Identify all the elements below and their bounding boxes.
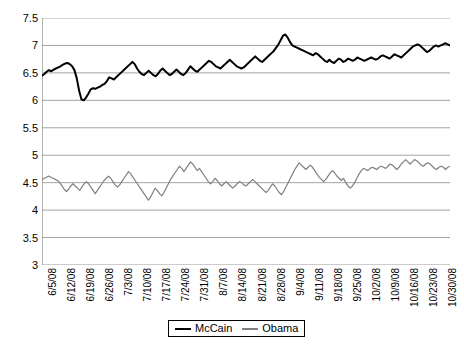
- x-axis-tick-label: 9/4/08: [296, 268, 306, 296]
- y-axis-tick-label: 6: [32, 95, 38, 106]
- y-axis-tick-label: 4: [32, 205, 38, 216]
- x-axis-tick-label: 10/30/08: [448, 268, 458, 307]
- x-axis-tick-label: 9/25/08: [353, 268, 363, 301]
- x-axis-tick-label: 6/12/08: [67, 268, 77, 301]
- x-axis-tick-label: 10/2/08: [372, 268, 382, 301]
- y-axis-tick-label: 3.5: [23, 232, 38, 243]
- x-axis-tick-label: 7/24/08: [181, 268, 191, 301]
- y-axis-tick-label: 6.5: [23, 67, 38, 78]
- y-axis: 33.544.555.566.577.5: [0, 0, 38, 345]
- y-axis-tick-label: 4.5: [23, 177, 38, 188]
- x-axis-tick-label: 9/18/08: [334, 268, 344, 301]
- legend-item-mccain: McCain: [175, 323, 232, 334]
- x-axis-tick-label: 10/9/08: [391, 268, 401, 301]
- chart-legend: McCain Obama: [168, 320, 305, 337]
- legend-label-mccain: McCain: [195, 323, 232, 334]
- x-axis-tick-label: 7/10/08: [143, 268, 153, 301]
- x-axis-tick-label: 10/23/08: [429, 268, 439, 307]
- y-axis-tick-label: 7.5: [23, 13, 38, 24]
- x-axis-tick-label: 7/17/08: [162, 268, 172, 301]
- legend-label-obama: Obama: [262, 323, 298, 334]
- plot-svg: [42, 18, 450, 265]
- x-axis-tick-label: 8/28/08: [277, 268, 287, 301]
- y-axis-tick-label: 5.5: [23, 122, 38, 133]
- y-axis-tick-label: 7: [32, 40, 38, 51]
- x-axis-tick-label: 6/26/08: [105, 268, 115, 301]
- x-axis-tick-label: 9/11/08: [315, 268, 325, 301]
- series-line-obama: [42, 160, 450, 201]
- x-axis-tick-label: 7/31/08: [200, 268, 210, 301]
- y-axis-tick-label: 3: [32, 260, 38, 271]
- y-axis-tick-label: 5: [32, 150, 38, 161]
- plot-area: [42, 18, 450, 265]
- x-axis-tick-label: 8/21/08: [258, 268, 268, 301]
- legend-swatch-mccain: [175, 328, 191, 330]
- line-chart: 33.544.555.566.577.5 6/5/086/12/086/19/0…: [0, 0, 464, 345]
- x-axis-tick-label: 6/19/08: [86, 268, 96, 301]
- series-line-mccain: [42, 34, 450, 100]
- x-axis-tick-label: 7/3/08: [124, 268, 134, 296]
- legend-swatch-obama: [242, 328, 258, 330]
- x-axis-tick-label: 6/5/08: [48, 268, 58, 296]
- x-axis-tick-label: 8/7/08: [219, 268, 229, 296]
- legend-item-obama: Obama: [242, 323, 298, 334]
- x-axis-tick-label: 10/16/08: [410, 268, 420, 307]
- x-axis-tick-label: 8/14/08: [238, 268, 248, 301]
